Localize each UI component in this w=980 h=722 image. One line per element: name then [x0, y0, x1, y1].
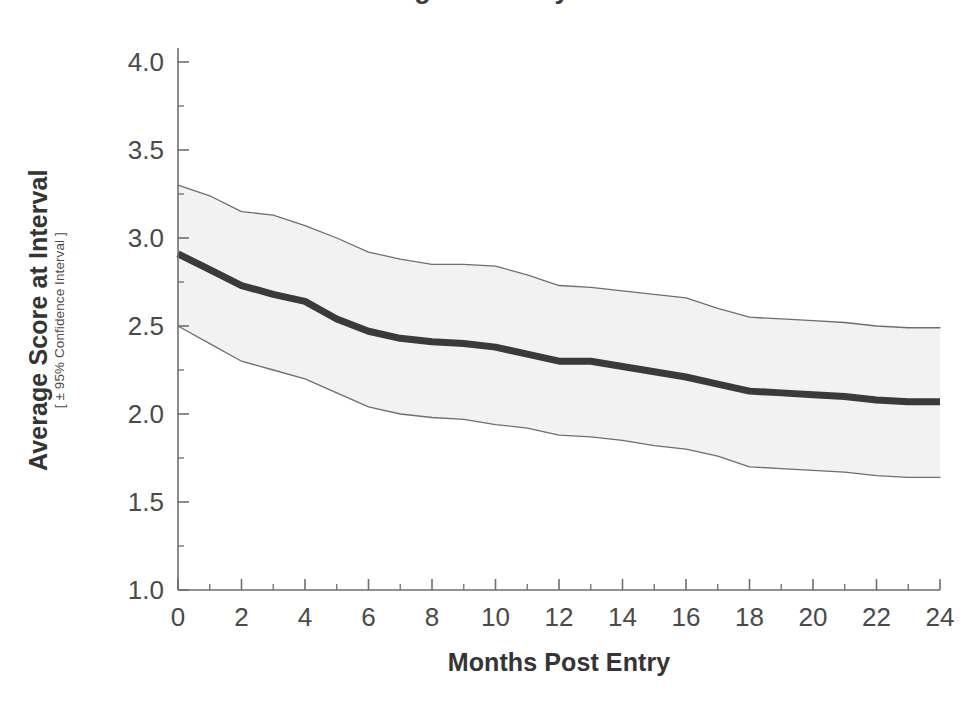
x-axis-title: Months Post Entry	[178, 648, 940, 677]
x-tick-label: 12	[545, 602, 574, 632]
chart-figure: Average Score by Time Average Score at I…	[0, 0, 980, 722]
y-tick-label: 1.5	[128, 487, 164, 517]
y-tick-label: 3.5	[128, 135, 164, 165]
y-tick-label: 4.0	[128, 47, 164, 77]
x-tick-label: 22	[862, 602, 891, 632]
y-tick-labels: 1.01.52.02.53.03.54.0	[128, 47, 164, 605]
y-tick-label: 3.0	[128, 223, 164, 253]
x-tick-label: 14	[608, 602, 637, 632]
confidence-band-fill	[178, 185, 940, 477]
plot-area: 024681012141618202224 1.01.52.02.53.03.5…	[0, 0, 980, 722]
confidence-band	[178, 185, 940, 477]
x-tick-label: 2	[234, 602, 248, 632]
y-tick-label: 1.0	[128, 575, 164, 605]
x-tick-label: 8	[425, 602, 439, 632]
x-tick-label: 24	[926, 602, 955, 632]
x-tick-label: 0	[171, 602, 185, 632]
x-tick-label: 20	[799, 602, 828, 632]
y-tick-label: 2.5	[128, 311, 164, 341]
x-tick-label: 10	[481, 602, 510, 632]
x-tick-label: 16	[672, 602, 701, 632]
x-tick-label: 6	[361, 602, 375, 632]
y-tick-label: 2.0	[128, 399, 164, 429]
x-tick-label: 4	[298, 602, 312, 632]
x-tick-labels: 024681012141618202224	[171, 602, 955, 632]
x-tick-label: 18	[735, 602, 764, 632]
